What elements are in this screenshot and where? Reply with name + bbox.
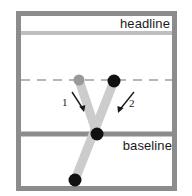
stroke-junction-dot — [91, 128, 104, 141]
headline-guide-label: headline — [120, 17, 170, 30]
stroke-order-number-2: 2 — [129, 98, 135, 109]
letter-stroke-order-diagram: headline baseline 1 2 — [0, 0, 192, 196]
stroke-2-end-dot — [69, 174, 82, 187]
stroke-2-start-dot — [108, 75, 121, 88]
baseline-guide-label: baseline — [123, 139, 172, 152]
stroke-1-start-dot — [74, 75, 85, 86]
writing-frame — [19, 14, 175, 189]
stroke-order-number-1: 1 — [62, 97, 68, 108]
